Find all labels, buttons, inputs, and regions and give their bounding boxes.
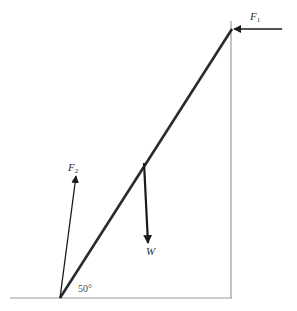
f1-label-main: F (250, 10, 257, 22)
angle-label-text: 50° (78, 283, 92, 294)
weight-label: W (146, 246, 155, 257)
ladder-line (60, 29, 232, 298)
angle-label: 50° (78, 284, 92, 294)
weight-label-text: W (146, 245, 155, 257)
ladder-diagram (0, 0, 297, 311)
force-w-arrow (144, 163, 148, 243)
force-f2-arrow (60, 176, 76, 298)
f1-label: F1 (250, 11, 260, 24)
f2-label-sub: 2 (75, 167, 79, 175)
f2-label: F2 (68, 162, 78, 175)
f1-label-sub: 1 (257, 16, 261, 24)
f2-label-main: F (68, 161, 75, 173)
